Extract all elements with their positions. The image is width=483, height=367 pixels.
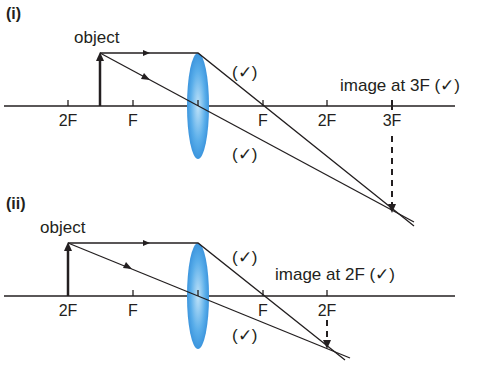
axis-ticks-ii xyxy=(133,290,327,296)
check-mark-lower-i: (✓) xyxy=(232,145,257,164)
axis-label-2f-right-i: 2F xyxy=(318,112,337,129)
axis-label-f-right-i: F xyxy=(258,112,268,129)
ray-arrow-parallel-ii xyxy=(143,240,150,246)
axis-label-f-left-ii: F xyxy=(128,302,138,319)
axis-ticks-i xyxy=(68,100,392,110)
ray-arrow-central-i xyxy=(141,73,150,80)
panel-label-ii: (ii) xyxy=(6,195,26,212)
diagram-ii: (ii) 2F F F 2F object (✓) (✓) xyxy=(4,195,455,360)
axis-label-2f-left-i: 2F xyxy=(59,112,78,129)
axis-label-2f-left-ii: 2F xyxy=(59,302,78,319)
image-label-i: image at 3F (✓) xyxy=(340,76,460,95)
diagram-i: (i) 2F F F 2F 3F object xyxy=(4,5,460,226)
ray-arrow-parallel-i xyxy=(143,50,150,56)
axis-label-f-left-i: F xyxy=(128,112,138,129)
axis-label-3f-i: 3F xyxy=(383,112,402,129)
check-mark-upper-i: (✓) xyxy=(232,63,257,82)
check-mark-upper-ii: (✓) xyxy=(232,248,257,267)
object-label-ii: object xyxy=(40,218,86,237)
ray-arrow-central-ii xyxy=(123,262,132,269)
image-label-ii: image at 2F (✓) xyxy=(275,265,395,284)
check-mark-lower-ii: (✓) xyxy=(232,326,257,345)
axis-label-f-right-ii: F xyxy=(258,302,268,319)
central-ray-ii xyxy=(68,243,350,358)
panel-label-i: (i) xyxy=(6,5,21,22)
object-label-i: object xyxy=(74,28,120,47)
ray-diagram-canvas: (i) 2F F F 2F 3F object xyxy=(0,0,483,367)
axis-label-2f-right-ii: 2F xyxy=(318,302,337,319)
